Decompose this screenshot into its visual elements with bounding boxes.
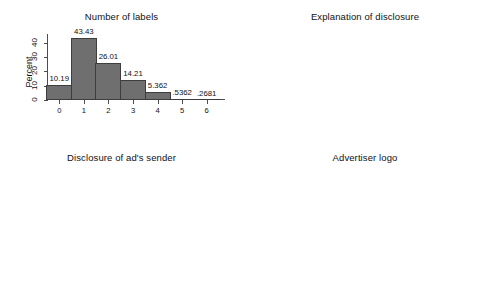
- x-axis-tick: [84, 100, 85, 104]
- chart-panel-advertiser-logo: Advertiser logo 020406080Percent32.17Not…: [243, 141, 487, 282]
- chart-title: Disclosure of ad's sender: [0, 152, 243, 163]
- y-axis-tick-label: 0: [30, 93, 39, 107]
- chart-panel-number-of-labels: Number of labels 010203040Percent10.1904…: [0, 0, 243, 141]
- y-axis-tick: [44, 71, 48, 72]
- x-axis-tick: [133, 100, 134, 104]
- x-axis-tick: [182, 100, 183, 104]
- chart-figure-grid: Number of labels 010203040Percent10.1904…: [0, 0, 487, 282]
- y-axis-tick: [44, 43, 48, 44]
- chart-panel-disclosure-of-ads-sender: Disclosure of ad's sender 0204060Percent…: [0, 141, 243, 282]
- x-axis-tick-label: 6: [190, 106, 224, 115]
- x-axis-tick: [59, 100, 60, 104]
- y-axis-tick-label: 40: [30, 35, 39, 49]
- bar-value-label: .2681: [179, 89, 235, 98]
- bar-value-label: 26.01: [80, 52, 136, 61]
- chart-panel-explanation-of-disclosure: Explanation of disclosure 0204060Percent…: [243, 0, 487, 141]
- x-axis-tick: [207, 100, 208, 104]
- plot-area: 010203040Percent10.19043.43126.01214.213…: [47, 34, 219, 100]
- bar: [46, 85, 72, 100]
- bar-value-label: 43.43: [56, 27, 112, 36]
- chart-title: Advertiser logo: [243, 152, 487, 163]
- chart-title: Number of labels: [0, 11, 243, 22]
- y-axis-tick: [44, 57, 48, 58]
- chart-title: Explanation of disclosure: [243, 11, 487, 22]
- bar: [71, 38, 97, 100]
- y-axis-tick: [44, 100, 48, 101]
- x-axis-tick: [158, 100, 159, 104]
- x-axis-tick: [108, 100, 109, 104]
- bar-value-label: 14.21: [105, 69, 161, 78]
